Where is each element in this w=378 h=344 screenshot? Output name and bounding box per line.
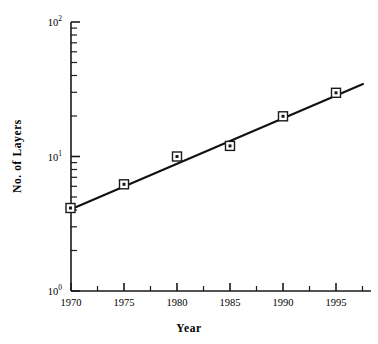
y-minor-ticks: [71, 28, 77, 250]
x-tick-labels: 1970 1975 1980 1985 1990 1995: [61, 297, 347, 308]
axis-lines: [71, 22, 371, 291]
data-point-1985: [226, 141, 235, 150]
data-point-1990: [279, 112, 288, 121]
x-tick-label-1995: 1995: [326, 297, 347, 308]
x-tick-label-1970: 1970: [61, 297, 82, 308]
figure-canvas: 100 101 102 1970 1975 1980 1985 1990 199…: [0, 0, 378, 344]
x-axis-title: Year: [0, 322, 378, 334]
trend-line: [71, 84, 363, 209]
y-tick-mantissa-1: 10: [48, 152, 59, 163]
y-tick-exponent-1: 1: [58, 149, 62, 158]
data-point-1980: [173, 152, 182, 161]
y-tick-label-2: 102: [48, 14, 63, 28]
x-tick-label-1990: 1990: [273, 297, 294, 308]
data-point-1975: [120, 180, 129, 189]
y-tick-exponent-2: 2: [58, 14, 62, 23]
chart-plot: 100 101 102 1970 1975 1980 1985 1990 199…: [0, 0, 378, 344]
y-axis-title: No. of Layers: [11, 96, 23, 216]
data-point-1970: [66, 204, 75, 213]
x-tick-label-1980: 1980: [167, 297, 188, 308]
data-point-1995: [332, 88, 341, 97]
x-tick-label-1985: 1985: [220, 297, 241, 308]
y-tick-mantissa-2: 10: [48, 17, 59, 28]
x-tick-label-1975: 1975: [114, 297, 135, 308]
y-tick-labels: 100 101 102: [48, 14, 63, 297]
y-tick-exponent-0: 0: [58, 283, 62, 292]
y-tick-label-0: 100: [48, 283, 63, 297]
y-tick-label-1: 101: [48, 149, 63, 163]
y-tick-mantissa-0: 10: [48, 286, 59, 297]
